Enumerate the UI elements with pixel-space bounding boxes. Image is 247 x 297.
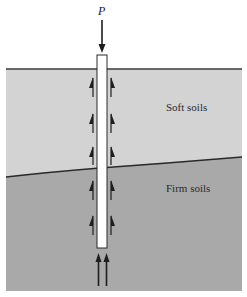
diagram-canvas (0, 0, 247, 297)
firm-soil-layer (6, 157, 242, 291)
pile-soil-diagram: P Soft soils Firm soils (0, 0, 247, 297)
load-label: P (98, 5, 105, 17)
pile (97, 55, 107, 248)
firm-soils-label: Firm soils (166, 183, 210, 194)
load-arrow-icon (99, 20, 106, 53)
soft-soils-label: Soft soils (166, 102, 207, 113)
